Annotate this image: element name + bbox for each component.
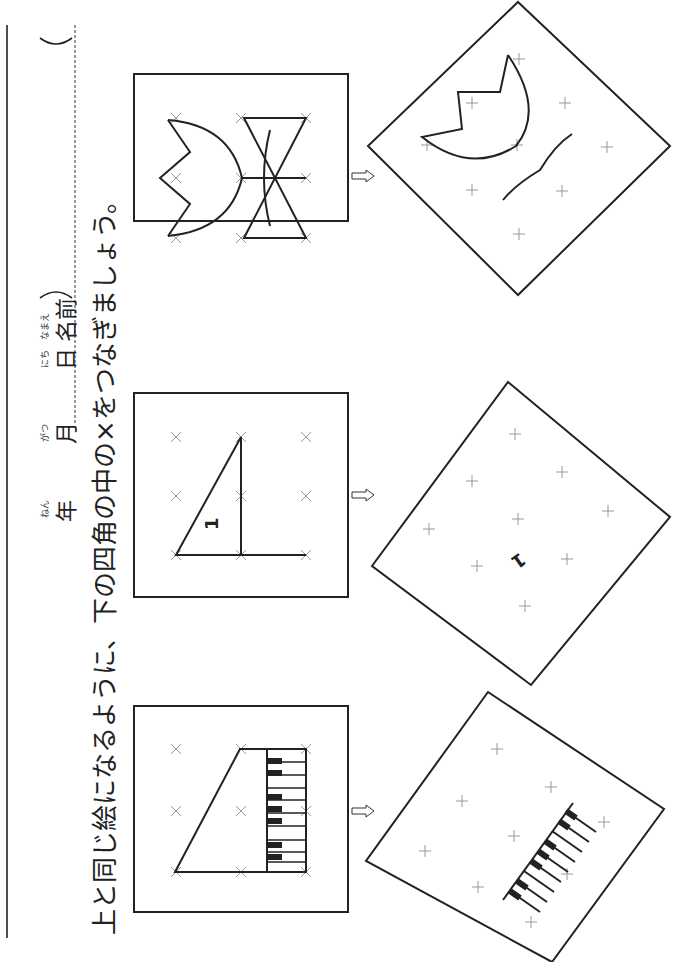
svg-text:1: 1 — [201, 517, 222, 530]
year-ruby: ねん — [38, 500, 51, 518]
target-box-tulip-bow — [368, 2, 670, 295]
month-ruby: がつ — [38, 424, 51, 442]
target-box-piano — [366, 692, 664, 962]
name-close-paren — [40, 38, 72, 44]
month-label: 月 — [48, 422, 80, 444]
target-box-triangle: 1 — [372, 382, 670, 685]
instruction-part1: 上と同じ絵になるように、 — [90, 624, 120, 935]
model-box-tulip-bow — [134, 74, 348, 243]
arrow-icon — [352, 170, 374, 182]
arrow-icon — [352, 805, 374, 817]
model-box-piano — [134, 706, 348, 912]
year-label: 年 — [48, 500, 80, 522]
name-label: 名前 — [48, 298, 80, 342]
name-ruby: なまえ — [38, 313, 51, 340]
day-ruby: にち — [38, 350, 51, 368]
instruction-text: 上と同じ絵になるように、下の四角の中の×をつなぎましょう。 — [84, 188, 121, 935]
day-label: 日 — [48, 348, 80, 370]
instruction-part2: 下の四角の中の×をつなぎましょう。 — [90, 188, 120, 624]
arrow-icon — [352, 489, 374, 501]
model-box-triangle: 1 — [134, 393, 348, 597]
svg-text:1: 1 — [507, 549, 529, 573]
